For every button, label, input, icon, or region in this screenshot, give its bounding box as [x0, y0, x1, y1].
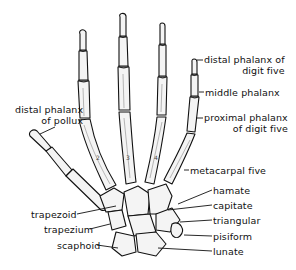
metacarpal-number-2: 2: [96, 154, 100, 161]
label-capitate: capitate: [213, 200, 253, 211]
carpal-bones: [100, 184, 182, 256]
label-pisiform: pisiform: [213, 231, 252, 242]
label-proximal-phalanx-digit-five: proximal phalanxof digit five: [204, 112, 288, 134]
metacarpal-number-3: 3: [126, 154, 130, 161]
label-hamate: hamate: [213, 185, 250, 196]
label-trapezium: trapezium: [44, 224, 93, 235]
label-metacarpal-five: metacarpal five: [190, 165, 266, 176]
label-lunate: lunate: [213, 246, 244, 257]
label-distal-phalanx-digit-five: distal phalanx ofdigit five: [204, 54, 285, 76]
label-trapezoid: trapezoid: [31, 209, 77, 220]
label-middle-phalanx: middle phalanx: [205, 87, 280, 98]
label-triangular: triangular: [213, 215, 261, 226]
label-scaphoid: scaphoid: [57, 240, 100, 251]
hand-bones-diagram: 2 3 4 distal phalanx ofdigit fivemiddle …: [0, 0, 296, 270]
label-distal-phalanx-pollux: distal phalanxof pollux: [15, 104, 83, 126]
metacarpal-number-4: 4: [154, 154, 158, 161]
